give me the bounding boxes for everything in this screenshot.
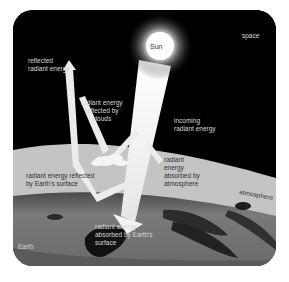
label-sun: Sun [150, 43, 162, 51]
label-earth: Earth [18, 243, 34, 251]
diagram-panel: space Sun incoming radiant energy reflec… [13, 10, 276, 266]
label-reflected: reflected radiant energy [28, 57, 70, 73]
label-absorbed-by-surface: radiant energy absorbed by Earth's surfa… [95, 223, 153, 247]
label-space: space [242, 32, 259, 40]
label-absorbed-by-atmosphere: radiant energy absorbed by atmosphere [164, 156, 200, 188]
label-reflected-by-clouds: radiant energy reflected by clouds [81, 99, 123, 123]
label-reflected-by-surface: radiant energy reflected by Earth's surf… [26, 172, 94, 188]
label-incoming: incoming radiant energy [174, 117, 216, 133]
